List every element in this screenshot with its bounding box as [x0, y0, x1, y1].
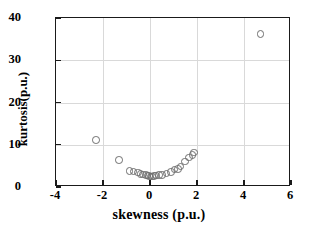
data-point-marker	[92, 136, 100, 144]
y-axis-tick	[56, 60, 61, 61]
x-axis-tick-label: -4	[50, 188, 60, 203]
x-axis-tick	[196, 180, 197, 185]
gridline-horizontal	[56, 60, 289, 61]
x-axis-tick-label: 0	[146, 188, 152, 203]
gridline-vertical	[244, 18, 245, 185]
x-axis-tick	[290, 180, 291, 185]
y-axis-label: kurtosis(p.u.)	[15, 24, 31, 194]
gridline-vertical	[103, 18, 104, 185]
x-axis-tick-label: 4	[240, 188, 246, 203]
gridline-horizontal	[56, 145, 289, 146]
data-point-marker	[115, 156, 123, 164]
data-point-marker	[257, 30, 265, 38]
y-axis-tick	[56, 17, 61, 18]
plot-area	[55, 17, 290, 186]
gridline-vertical	[197, 18, 198, 185]
gridline-horizontal	[56, 103, 289, 104]
x-axis-label: skewness (p.u.)	[0, 207, 318, 223]
x-axis-tick-label: 6	[287, 188, 293, 203]
scatter-chart-figure: skewness (p.u.) kurtosis(p.u.) -4-202460…	[0, 0, 318, 235]
y-axis-tick	[56, 144, 61, 145]
x-axis-tick-label: 2	[193, 188, 199, 203]
y-axis-tick-label: 20	[9, 94, 22, 109]
gridline-vertical	[150, 18, 151, 185]
y-axis-tick-label: 10	[9, 136, 22, 151]
x-axis-tick	[243, 180, 244, 185]
y-axis-tick	[56, 102, 61, 103]
data-point-marker	[190, 149, 198, 157]
x-axis-tick-label: -2	[97, 188, 107, 203]
x-axis-tick	[149, 180, 150, 185]
y-axis-tick-label: 40	[9, 10, 22, 25]
x-axis-tick	[55, 180, 56, 185]
y-axis-tick-label: 30	[9, 52, 22, 67]
x-axis-tick	[102, 180, 103, 185]
y-axis-tick-label: 0	[15, 179, 21, 194]
